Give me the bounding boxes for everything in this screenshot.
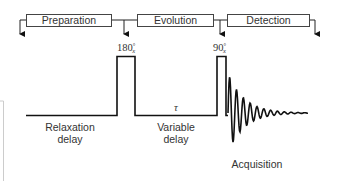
- relaxation-delay-label-1: Relaxation: [45, 121, 95, 133]
- tau-label: τ: [174, 102, 179, 113]
- stage-label: Detection: [246, 14, 291, 26]
- pulse-90-label: 90°x: [213, 42, 227, 54]
- relaxation-delay-label-2: delay: [57, 133, 83, 145]
- variable-delay-label-1: Variable: [157, 121, 195, 133]
- variable-delay-label-2: delay: [163, 133, 189, 145]
- pulse-sequence-diagram: Preparation Evolution Detection 180°x 90…: [0, 0, 337, 181]
- stage-detection: Detection: [228, 14, 310, 26]
- arrow-start: [20, 20, 26, 34]
- arrow-end: [310, 20, 315, 34]
- stage-preparation: Preparation: [27, 14, 112, 26]
- stage-label: Evolution: [154, 14, 197, 26]
- stage-label: Preparation: [42, 14, 96, 26]
- pulse-180-label: 180°x: [117, 42, 136, 54]
- stage-evolution: Evolution: [138, 14, 214, 26]
- pulse-sequence-trace: [26, 57, 228, 116]
- fid-signal: [228, 77, 308, 142]
- acquisition-label: Acquisition: [232, 158, 283, 170]
